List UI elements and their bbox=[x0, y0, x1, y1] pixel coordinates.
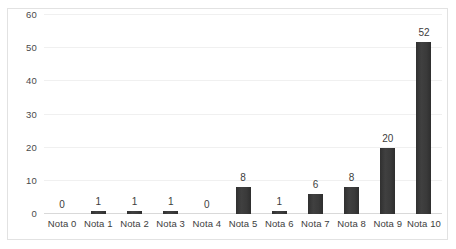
bar-slot: 20 bbox=[370, 15, 406, 214]
bar[interactable] bbox=[272, 211, 287, 214]
bar-slot: 6 bbox=[297, 15, 333, 214]
bar-value-label: 0 bbox=[204, 200, 210, 210]
bar-slot: 1 bbox=[80, 15, 116, 214]
bar[interactable] bbox=[236, 187, 251, 214]
bar-chart: 0102030405060 0111081682052 Nota 0Nota 1… bbox=[7, 8, 448, 240]
x-axis-tick-label: Nota 4 bbox=[189, 218, 225, 229]
bar-value-label: 1 bbox=[276, 197, 282, 207]
bar-series: 0111081682052 bbox=[44, 15, 442, 214]
bar-value-label: 1 bbox=[132, 197, 138, 207]
bar[interactable] bbox=[127, 211, 142, 214]
y-axis-tick-label: 40 bbox=[26, 75, 37, 86]
y-axis-tick-label: 0 bbox=[32, 208, 37, 219]
bar-value-label: 6 bbox=[313, 180, 319, 190]
x-axis-tick-label: Nota 6 bbox=[261, 218, 297, 229]
bar-slot: 0 bbox=[44, 15, 80, 214]
plot-area: 0102030405060 0111081682052 bbox=[44, 15, 442, 214]
x-axis-tick-label: Nota 8 bbox=[334, 218, 370, 229]
bar[interactable] bbox=[163, 211, 178, 214]
bar[interactable] bbox=[91, 211, 106, 214]
x-axis-tick-label: Nota 7 bbox=[297, 218, 333, 229]
x-axis-tick-label: Nota 0 bbox=[44, 218, 80, 229]
x-axis-tick-label: Nota 9 bbox=[370, 218, 406, 229]
y-axis-tick-label: 30 bbox=[26, 108, 37, 119]
x-axis-labels: Nota 0Nota 1Nota 2Nota 3Nota 4Nota 5Nota… bbox=[44, 218, 442, 229]
bar-slot: 1 bbox=[153, 15, 189, 214]
bar-value-label: 20 bbox=[382, 134, 393, 144]
bar-value-label: 1 bbox=[96, 197, 102, 207]
x-axis-tick-label: Nota 3 bbox=[153, 218, 189, 229]
bar-value-label: 8 bbox=[240, 173, 246, 183]
bar-slot: 1 bbox=[261, 15, 297, 214]
bar-value-label: 0 bbox=[59, 200, 65, 210]
x-axis-tick-label: Nota 2 bbox=[116, 218, 152, 229]
bar-slot: 52 bbox=[406, 15, 442, 214]
bar-slot: 0 bbox=[189, 15, 225, 214]
bar[interactable] bbox=[308, 194, 323, 214]
y-axis-tick-label: 60 bbox=[26, 9, 37, 20]
y-axis-tick-label: 50 bbox=[26, 42, 37, 53]
bar-value-label: 8 bbox=[349, 173, 355, 183]
bar-value-label: 52 bbox=[418, 28, 429, 38]
bar[interactable] bbox=[344, 187, 359, 214]
bar-slot: 8 bbox=[225, 15, 261, 214]
bar-slot: 1 bbox=[116, 15, 152, 214]
bar-value-label: 1 bbox=[168, 197, 174, 207]
x-axis-tick-label: Nota 10 bbox=[406, 218, 442, 229]
x-axis-tick-label: Nota 1 bbox=[80, 218, 116, 229]
y-axis-tick-label: 10 bbox=[26, 174, 37, 185]
bar-slot: 8 bbox=[334, 15, 370, 214]
y-axis-tick-label: 20 bbox=[26, 141, 37, 152]
bar[interactable] bbox=[380, 148, 395, 214]
x-axis-tick-label: Nota 5 bbox=[225, 218, 261, 229]
bar[interactable] bbox=[416, 42, 431, 214]
